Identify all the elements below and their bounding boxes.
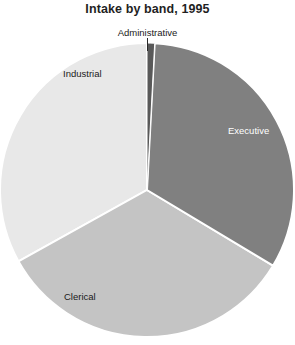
administrative-leader-line xyxy=(147,38,148,51)
pie-graphic xyxy=(0,0,295,345)
pie-label-administrative: Administrative xyxy=(0,28,295,38)
pie-label-clerical: Clerical xyxy=(64,292,96,302)
pie-label-industrial: Industrial xyxy=(63,69,102,79)
pie-chart: Intake by band, 1995 Administrative Indu… xyxy=(0,0,295,345)
pie-label-executive: Executive xyxy=(228,126,269,136)
